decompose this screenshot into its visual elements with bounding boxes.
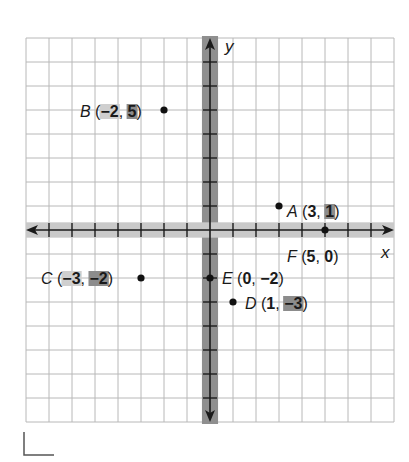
- comma: ,: [81, 270, 90, 287]
- comma: ,: [275, 295, 284, 312]
- point-name: C: [41, 270, 53, 287]
- point-label: F (5, 0): [287, 248, 339, 265]
- y-coordinate: −2: [89, 270, 107, 287]
- point-label: B (−2, 5): [80, 103, 142, 120]
- point-name: A: [286, 203, 298, 220]
- y-coordinate: −3: [284, 295, 302, 312]
- paren-close: ): [137, 103, 142, 120]
- point-marker-icon: [229, 298, 236, 305]
- y-coordinate: 1: [325, 203, 334, 220]
- comma: ,: [316, 203, 325, 220]
- point-marker-icon: [137, 274, 144, 281]
- point-label: C (−3, −2): [41, 270, 113, 287]
- point-name: B: [80, 103, 91, 120]
- coordinate-plane: A (3, 1)B (−2, 5)C (−3, −2)D (1, −3)E (0…: [0, 0, 409, 462]
- point-marker-icon: [160, 106, 167, 113]
- point-label: A (3, 1): [286, 203, 339, 220]
- x-coordinate: 0: [242, 270, 251, 287]
- point-name: E: [222, 270, 233, 287]
- y-coordinate: −2: [260, 270, 278, 287]
- point-marker-icon: [275, 202, 282, 209]
- x-coordinate: −2: [100, 103, 118, 120]
- paren-close: ): [302, 295, 307, 312]
- paren-close: ): [333, 248, 338, 265]
- x-axis-label: x: [380, 243, 390, 262]
- paren-close: ): [108, 270, 113, 287]
- point-A: A (3, 1): [275, 202, 339, 220]
- corner-bracket-icon: [24, 432, 54, 455]
- point-name: D: [245, 295, 257, 312]
- point-label: D (1, −3): [245, 295, 308, 312]
- point-marker-icon: [206, 274, 213, 281]
- paren-close: ): [279, 270, 284, 287]
- y-coordinate: 5: [128, 103, 137, 120]
- y-axis-label: y: [224, 37, 235, 56]
- point-marker-icon: [321, 226, 328, 233]
- comma: ,: [119, 103, 128, 120]
- comma: ,: [251, 270, 260, 287]
- point-B: B (−2, 5): [80, 103, 168, 120]
- y-coordinate: 0: [324, 248, 333, 265]
- x-coordinate: 3: [307, 203, 316, 220]
- x-coordinate: 1: [266, 295, 275, 312]
- point-D: D (1, −3): [229, 295, 307, 312]
- x-coordinate: −3: [62, 270, 80, 287]
- point-label: E (0, −2): [222, 270, 284, 287]
- x-coordinate: 5: [307, 248, 316, 265]
- paren-close: ): [334, 203, 339, 220]
- axes: [26, 38, 394, 422]
- comma: ,: [315, 248, 324, 265]
